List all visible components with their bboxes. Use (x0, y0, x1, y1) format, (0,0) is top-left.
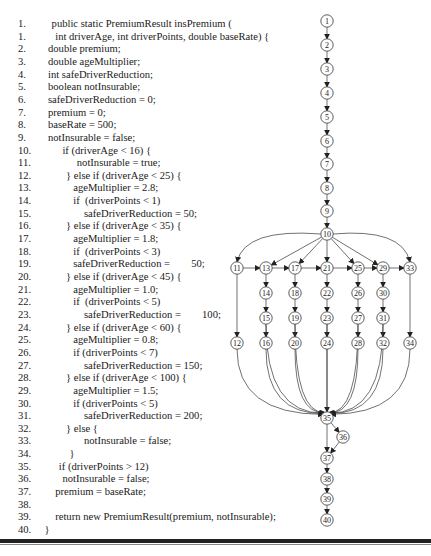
edge-10-13 (271, 237, 321, 265)
node-label: 28 (354, 339, 362, 348)
node-37: 37 (321, 452, 333, 464)
node-13: 13 (260, 262, 272, 274)
node-1: 1 (321, 15, 333, 27)
node-8: 8 (321, 182, 333, 194)
node-34: 34 (404, 337, 416, 349)
node-label: 19 (291, 314, 299, 323)
node-40: 40 (321, 514, 333, 526)
edge-12-35 (237, 349, 323, 414)
node-label: 26 (354, 289, 362, 298)
node-label: 40 (323, 516, 331, 525)
node-20: 20 (289, 337, 301, 349)
node-4: 4 (321, 87, 333, 99)
node-label: 6 (325, 137, 329, 146)
node-33: 33 (404, 262, 416, 274)
node-label: 29 (379, 264, 387, 273)
node-label: 16 (262, 339, 270, 348)
node-11: 11 (231, 262, 243, 274)
node-label: 4 (325, 89, 329, 98)
node-24: 24 (321, 337, 333, 349)
node-35: 35 (321, 412, 333, 424)
node-27: 27 (352, 312, 364, 324)
node-3: 3 (321, 63, 333, 75)
node-label: 18 (291, 289, 299, 298)
node-28: 28 (352, 337, 364, 349)
node-label: 3 (325, 65, 329, 74)
edge-36-37 (331, 442, 339, 453)
node-label: 24 (323, 339, 331, 348)
node-label: 13 (262, 264, 270, 273)
node-label: 25 (354, 264, 362, 273)
edge-16-35 (266, 349, 323, 413)
node-label: 2 (325, 41, 329, 50)
node-31: 31 (377, 312, 389, 324)
node-label: 35 (323, 414, 331, 423)
node-label: 7 (325, 160, 329, 169)
node-label: 21 (323, 264, 331, 273)
node-label: 39 (323, 495, 331, 504)
node-label: 37 (323, 454, 331, 463)
edge-10-25 (331, 239, 354, 264)
node-label: 11 (233, 264, 241, 273)
node-32: 32 (377, 337, 389, 349)
node-label: 12 (233, 339, 241, 348)
bottom-rule (0, 539, 431, 543)
node-label: 31 (379, 314, 387, 323)
node-15: 15 (260, 312, 272, 324)
node-38: 38 (321, 473, 333, 485)
node-label: 5 (325, 113, 329, 122)
node-label: 15 (262, 314, 270, 323)
node-21: 21 (321, 262, 333, 274)
node-label: 27 (354, 314, 362, 323)
node-22: 22 (321, 287, 333, 299)
node-label: 8 (325, 184, 329, 193)
bottom-rule-thin (0, 544, 431, 545)
node-label: 22 (323, 289, 331, 298)
node-36: 36 (337, 431, 349, 443)
edge-10-17 (299, 239, 323, 264)
node-16: 16 (260, 337, 272, 349)
node-18: 18 (289, 287, 301, 299)
edge-34-35 (331, 349, 410, 414)
node-label: 36 (339, 433, 347, 442)
edge-10-29 (332, 237, 377, 265)
node-2: 2 (321, 39, 333, 51)
node-10: 10 (321, 228, 333, 240)
edge-35-36 (331, 423, 339, 433)
node-39: 39 (321, 493, 333, 505)
node-25: 25 (352, 262, 364, 274)
edge-10-33 (333, 233, 410, 262)
node-label: 23 (323, 314, 331, 323)
node-label: 33 (406, 264, 414, 273)
node-29: 29 (377, 262, 389, 274)
node-6: 6 (321, 135, 333, 147)
node-9: 9 (321, 205, 333, 217)
control-flow-graph: 1234567891011131721252933141822263015192… (0, 0, 431, 545)
node-label: 38 (323, 475, 331, 484)
node-19: 19 (289, 312, 301, 324)
node-5: 5 (321, 111, 333, 123)
node-12: 12 (231, 337, 243, 349)
node-label: 10 (323, 230, 331, 239)
edge-10-11 (237, 233, 321, 262)
node-label: 17 (291, 264, 299, 273)
graph-nodes: 1234567891011131721252933141822263015192… (231, 15, 416, 526)
node-label: 34 (406, 339, 414, 348)
node-label: 9 (325, 207, 329, 216)
node-label: 1 (325, 17, 329, 26)
edge-27-35 (329, 324, 358, 412)
node-17: 17 (289, 262, 301, 274)
node-label: 20 (291, 339, 299, 348)
node-30: 30 (377, 287, 389, 299)
edge-19-35 (295, 324, 325, 413)
node-label: 14 (262, 289, 270, 298)
node-label: 32 (379, 339, 387, 348)
node-14: 14 (260, 287, 272, 299)
node-label: 30 (379, 289, 387, 298)
node-26: 26 (352, 287, 364, 299)
node-7: 7 (321, 158, 333, 170)
node-23: 23 (321, 312, 333, 324)
